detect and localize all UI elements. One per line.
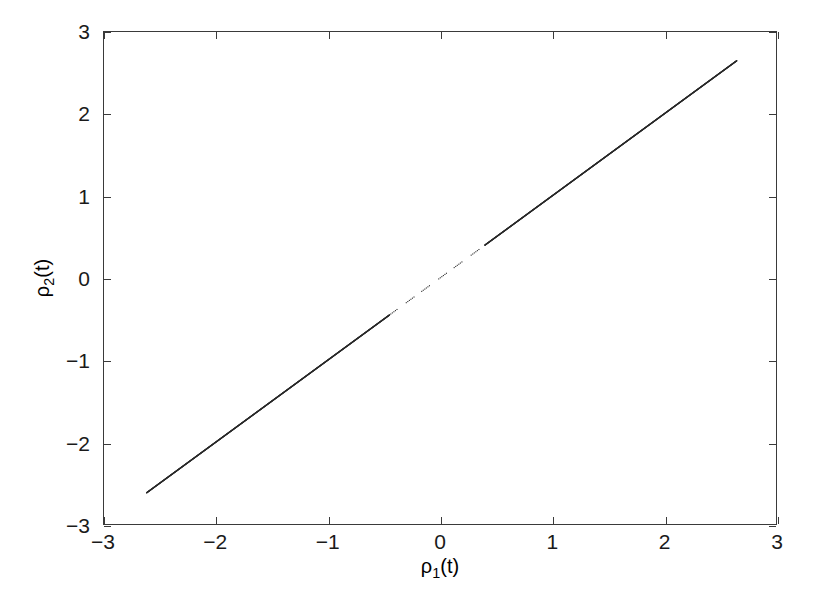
y-tick-right-2: [769, 361, 776, 362]
x-tick-bottom-5: [666, 517, 667, 524]
y-axis-label: ρ2(t): [32, 259, 56, 297]
y-axis-label-subscript: 2: [41, 278, 57, 286]
y-tick-left-1: [104, 444, 111, 445]
x-tick-top-4: [553, 32, 554, 39]
x-tick-bottom-3: [441, 517, 442, 524]
x-tick-top-5: [666, 32, 667, 39]
x-tick-label-6: 3: [771, 531, 783, 552]
y-tick-left-3: [104, 279, 111, 280]
y-tick-label-0: −3: [66, 515, 90, 536]
y-tick-label-4: 1: [78, 185, 90, 206]
x-tick-bottom-1: [216, 517, 217, 524]
x-tick-top-0: [104, 32, 105, 39]
x-tick-top-6: [778, 32, 779, 39]
y-tick-left-2: [104, 361, 111, 362]
figure-canvas: −3−2−10123−3−2−10123 ρ1(t) ρ2(t): [0, 0, 819, 611]
x-axis-label-arg: (t): [440, 555, 459, 577]
y-tick-label-1: −2: [66, 432, 90, 453]
y-tick-right-4: [769, 197, 776, 198]
y-tick-label-3: 0: [78, 268, 90, 289]
x-tick-label-1: −2: [203, 531, 227, 552]
series-0: [146, 60, 737, 493]
y-tick-left-4: [104, 197, 111, 198]
y-tick-label-6: 3: [78, 21, 90, 42]
x-tick-top-2: [329, 32, 330, 39]
y-axis-label-arg: (t): [31, 259, 53, 278]
y-tick-right-1: [769, 444, 776, 445]
y-tick-right-6: [769, 32, 776, 33]
x-tick-label-0: −3: [91, 531, 115, 552]
x-tick-bottom-4: [553, 517, 554, 524]
y-tick-right-3: [769, 279, 776, 280]
x-tick-label-3: 0: [434, 531, 446, 552]
x-axis-label-rho: ρ: [421, 555, 432, 577]
x-tick-top-3: [441, 32, 442, 39]
plot-area: [103, 31, 777, 525]
y-tick-left-5: [104, 114, 111, 115]
y-tick-right-0: [769, 526, 776, 527]
x-tick-top-1: [216, 32, 217, 39]
data-series-svg: [104, 32, 776, 524]
x-tick-label-2: −1: [316, 531, 340, 552]
y-tick-left-0: [104, 526, 111, 527]
y-tick-left-6: [104, 32, 111, 33]
y-tick-label-5: 2: [78, 103, 90, 124]
x-tick-bottom-2: [329, 517, 330, 524]
x-tick-label-4: 1: [546, 531, 558, 552]
x-tick-bottom-0: [104, 517, 105, 524]
y-tick-right-5: [769, 114, 776, 115]
x-tick-bottom-6: [778, 517, 779, 524]
x-tick-label-5: 2: [659, 531, 671, 552]
y-tick-label-2: −1: [66, 350, 90, 371]
y-axis-label-rho: ρ: [31, 286, 53, 297]
x-axis-label: ρ1(t): [421, 556, 459, 580]
